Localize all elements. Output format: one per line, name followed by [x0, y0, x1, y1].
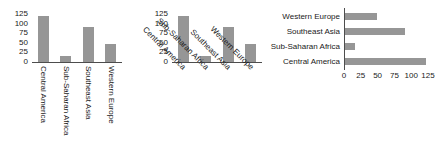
- category-label-cell: Western Europe: [240, 64, 263, 124]
- x-tick-label: 50: [373, 72, 382, 80]
- table-row: Southeast Asia: [262, 24, 430, 39]
- category-label-cell: Central America: [172, 64, 195, 124]
- x-tick-label: 100: [405, 72, 418, 80]
- category-label: Southeast Asia: [84, 66, 92, 119]
- table-row: Sub-Saharan Africa: [262, 39, 430, 54]
- y-tick-label: 100: [15, 20, 28, 28]
- y-tick-label: 125: [15, 10, 28, 18]
- x-tick-label: 75: [390, 72, 399, 80]
- category-label: Central America: [39, 66, 47, 123]
- x-tick-label: 125: [421, 72, 434, 80]
- y-tick-label: 25: [19, 48, 28, 56]
- x-tick-label: 0: [342, 72, 346, 80]
- category-label-cell: Sub-Saharan Africa: [195, 64, 218, 124]
- table-row: Western Europe: [262, 9, 430, 24]
- x-axis-line: [32, 62, 122, 63]
- x-axis-category-labels: Central AmericaSub-Saharan AfricaSouthea…: [172, 64, 262, 124]
- bar: [105, 44, 116, 62]
- bar: [83, 27, 94, 62]
- chart-horizontal-bars: Western EuropeSoutheast AsiaSub-Saharan …: [262, 8, 430, 88]
- bar: [38, 16, 49, 62]
- bar-cell: [100, 14, 123, 62]
- category-label: Sub-Saharan Africa: [62, 66, 70, 135]
- chart-vertical-labels-90: 1251007550250 Central AmericaSub-Saharan…: [8, 6, 128, 151]
- bar: [345, 43, 355, 50]
- x-tick-label: 25: [356, 72, 365, 80]
- y-tick-label: 75: [19, 29, 28, 37]
- y-axis-tick-labels: 1251007550250: [8, 6, 30, 58]
- category-label-cell: Southeast Asia: [217, 64, 240, 124]
- y-tick-label: 50: [19, 39, 28, 47]
- chart-vertical-labels-45: 1251007550250 Central AmericaSub-Saharan…: [148, 6, 268, 151]
- table-row: Central America: [262, 54, 430, 69]
- bar: [345, 28, 405, 35]
- category-label: Southeast Asia: [262, 27, 344, 36]
- x-axis-tick-labels: 0255075100125: [344, 72, 428, 82]
- category-label: Central America: [262, 57, 344, 66]
- bar: [345, 58, 426, 65]
- bar-series: [32, 14, 122, 62]
- y-tick-label: 0: [24, 58, 28, 66]
- bar: [345, 13, 377, 20]
- bar-cell: [32, 14, 55, 62]
- bar-cell: [77, 14, 100, 62]
- bar: [60, 56, 71, 62]
- category-label: Western Europe: [262, 12, 344, 21]
- bar-cell: [55, 14, 78, 62]
- y-tick-label: 0: [164, 58, 168, 66]
- category-label: Sub-Saharan Africa: [262, 42, 344, 51]
- category-label: Western Europe: [107, 66, 115, 124]
